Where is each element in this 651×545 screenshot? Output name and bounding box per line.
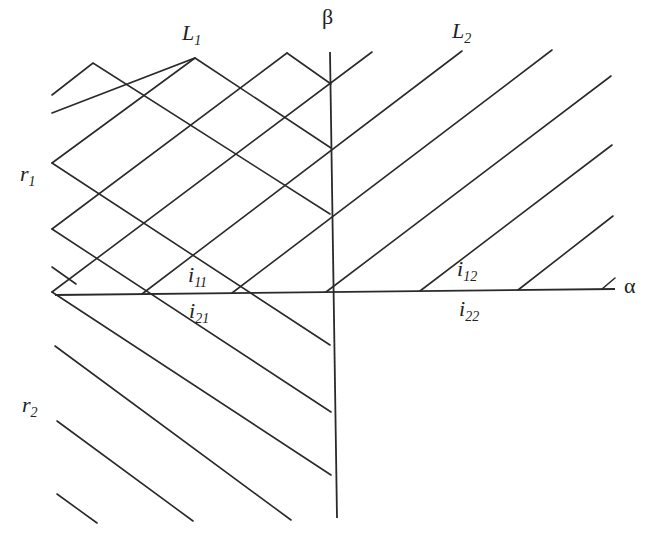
descending-line — [57, 494, 97, 523]
ascending-line — [602, 278, 615, 289]
ascending-line — [52, 58, 195, 163]
label-L2: L2 — [451, 18, 471, 46]
alpha-axis-label: α — [624, 273, 636, 298]
beta-axis-label: β — [322, 4, 333, 29]
label-i21: i21 — [189, 298, 209, 326]
ascending-line — [142, 51, 462, 294]
top-zigzag-line — [52, 63, 330, 214]
label-i12: i12 — [457, 256, 477, 284]
ascending-line — [326, 76, 611, 292]
ascending-line — [52, 52, 372, 292]
label-L1: L1 — [181, 20, 201, 48]
diagram-canvas: β α L1 L2 r1 r2 i11 i21 i12 i22 — [0, 0, 651, 545]
label-r1: r1 — [20, 161, 36, 189]
top-zigzag-line-3 — [287, 53, 331, 84]
descending-line — [57, 421, 193, 521]
label-i22: i22 — [459, 296, 479, 324]
descending-line — [52, 267, 76, 284]
ascending-line — [232, 50, 552, 293]
ascending-line — [420, 145, 612, 291]
alpha-axis — [55, 289, 615, 295]
label-r2: r2 — [22, 392, 38, 420]
label-i11: i11 — [188, 262, 207, 290]
ascending-line — [52, 53, 287, 229]
top-zigzag-line-2 — [52, 58, 331, 148]
ascending-line — [518, 216, 613, 290]
